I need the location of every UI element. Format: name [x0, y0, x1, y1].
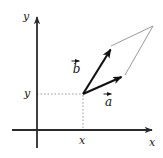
- x-tick-label: x: [79, 135, 85, 146]
- y-tick-label: y: [24, 88, 30, 99]
- vector-a-label: a: [103, 91, 114, 108]
- parallelogram-side-from-b: [111, 26, 153, 46]
- y-axis-label: y: [23, 11, 29, 22]
- vector-diagram-figure: y x y x b a: [0, 0, 163, 158]
- vector-b-letter: b: [73, 63, 81, 75]
- vector-a-letter: a: [105, 96, 112, 108]
- x-axis-label: x: [149, 137, 155, 148]
- vector-b-label: b: [71, 58, 82, 75]
- parallelogram-side-from-a: [125, 26, 153, 75]
